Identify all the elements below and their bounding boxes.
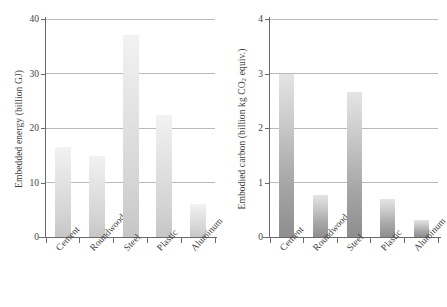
y-axis-tick-label: 20: [30, 123, 40, 133]
y-axis-tick: [41, 183, 46, 184]
y-axis-tick-label: 30: [30, 69, 40, 79]
bar-plastic: [156, 115, 172, 237]
y-axis-title-left-text: Embedded energy (billion GJ): [14, 70, 24, 188]
y-axis-tick-label: 4: [258, 14, 263, 24]
y-axis-tick-label: 0: [34, 232, 39, 242]
y-axis-tick-label: 1: [258, 178, 263, 188]
bar-cement: [55, 147, 71, 237]
y-axis-tick: [41, 19, 46, 20]
y-axis-title-right-suffix: equiv.): [237, 49, 247, 78]
x-axis-tick: [79, 237, 80, 243]
bar-cement: [279, 74, 294, 238]
plot-area-right: 01234CementRoundwoodSteelPlasticAluminum: [270, 19, 438, 237]
y-axis-tick-label: 0: [258, 232, 263, 242]
gridline: [46, 19, 215, 20]
gridline: [270, 73, 438, 74]
y-axis-tick-label: 2: [258, 123, 263, 133]
x-axis-tick: [404, 237, 405, 243]
x-axis-tick: [370, 237, 371, 243]
y-axis-tick: [265, 74, 270, 75]
y-axis-tick-label: 3: [258, 69, 263, 79]
x-axis-tick: [113, 237, 114, 243]
x-axis-tick: [337, 237, 338, 243]
gridline: [270, 19, 438, 20]
bar-roundwood: [89, 156, 105, 237]
y-axis-tick: [265, 19, 270, 20]
y-axis-tick: [41, 74, 46, 75]
y-axis-tick: [41, 128, 46, 129]
chart-panel-embedded-energy: Embedded energy (billion GJ) 010203040Ce…: [0, 0, 223, 307]
bar-steel: [347, 92, 362, 237]
y-axis-tick-label: 40: [30, 14, 40, 24]
x-axis-tick: [215, 237, 216, 243]
chart-panel-embodied-carbon: Embodied carbon (billion kg CO2 equiv.) …: [223, 0, 447, 307]
x-axis-tick: [438, 237, 439, 243]
y-axis-tick: [265, 128, 270, 129]
figure-embodied-energy-carbon: Embedded energy (billion GJ) 010203040Ce…: [0, 0, 447, 307]
x-axis-tick: [181, 237, 182, 243]
y-axis-title-right-subscript: 2: [240, 78, 248, 82]
y-axis-tick: [265, 183, 270, 184]
x-axis-tick: [270, 237, 271, 243]
y-axis-title-right-text: Embodied carbon (billion kg CO: [237, 81, 247, 209]
plot-area-left: 010203040CementRoundwoodSteelPlasticAlum…: [46, 19, 215, 237]
x-axis-tick: [147, 237, 148, 243]
y-axis-tick-label: 10: [30, 178, 40, 188]
x-axis-tick: [46, 237, 47, 243]
bar-steel: [123, 35, 139, 237]
x-axis-tick: [303, 237, 304, 243]
